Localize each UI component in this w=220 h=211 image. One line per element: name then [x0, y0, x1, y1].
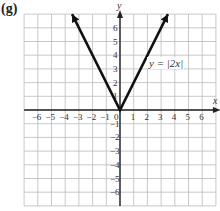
- svg-text:4: 4: [172, 112, 177, 122]
- svg-text:−2: −2: [110, 132, 120, 142]
- svg-text:−6: −6: [32, 112, 42, 122]
- svg-text:4: 4: [113, 50, 118, 60]
- svg-text:−1: −1: [100, 112, 110, 122]
- svg-text:−3: −3: [73, 112, 83, 122]
- svg-text:2: 2: [113, 78, 118, 88]
- graph: −6−5−4−3−2−10123456−6−5−4−3−2−1123456 y …: [0, 0, 220, 211]
- equation-label: y = |2x|: [148, 57, 183, 69]
- svg-text:−5: −5: [46, 112, 56, 122]
- svg-text:−2: −2: [87, 112, 97, 122]
- svg-text:2: 2: [144, 112, 149, 122]
- svg-text:−4: −4: [59, 112, 69, 122]
- svg-text:−1: −1: [110, 119, 120, 129]
- svg-text:−4: −4: [110, 160, 120, 170]
- svg-text:3: 3: [158, 112, 163, 122]
- svg-text:1: 1: [131, 112, 136, 122]
- svg-text:−6: −6: [110, 187, 120, 197]
- x-axis-label: x: [212, 95, 218, 106]
- svg-text:5: 5: [113, 37, 118, 47]
- svg-text:6: 6: [199, 112, 204, 122]
- svg-text:−3: −3: [110, 146, 120, 156]
- svg-text:3: 3: [113, 64, 118, 74]
- svg-text:−5: −5: [110, 174, 120, 184]
- svg-text:5: 5: [186, 112, 191, 122]
- svg-text:6: 6: [113, 23, 118, 33]
- y-axis-label: y: [116, 0, 122, 11]
